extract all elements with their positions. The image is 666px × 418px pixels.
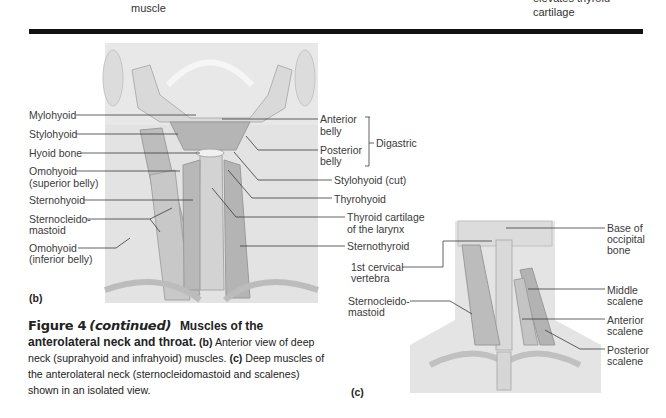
label-thyroid-cartilage: Thyroid cartilage [347, 212, 425, 223]
label-stylohyoid: Stylohyoid [29, 129, 77, 140]
figure-caption: Figure 4 (continued) Muscles of the ante… [28, 318, 333, 398]
figure-number: Figure 4 [28, 318, 86, 333]
figure-continued: (continued) [89, 318, 171, 333]
label-middle-scalene-2: scalene [607, 296, 643, 307]
label-omohyoid-superior-sub: (superior belly) [29, 178, 98, 189]
label-base-occipital-3: bone [607, 245, 630, 256]
panel-b-tag: (b) [29, 292, 42, 304]
caption-title-1: Muscles of the [180, 319, 263, 333]
label-omohyoid-superior: Omohyoid [29, 166, 77, 177]
label-thyroid-cartilage-2: of the larynx [347, 224, 404, 235]
caption-title-2: anterolateral neck and throat. [28, 335, 196, 349]
label-sternohyoid: Sternohyoid [29, 195, 85, 206]
label-anterior-belly: Anterior [320, 114, 357, 125]
label-sternothyroid: Sternothyroid [347, 241, 409, 252]
label-first-cervical-2: vertebra [351, 273, 390, 284]
caption-b-tag: (b) [199, 336, 213, 348]
panel-b-illustration [103, 43, 318, 303]
caption-c-tag: (c) [229, 352, 242, 364]
label-anterior-scalene-2: scalene [607, 326, 643, 337]
label-digastric: Digastric [376, 138, 417, 149]
panel-c-tag: (c) [351, 386, 364, 398]
label-anterior-belly-2: belly [320, 126, 342, 137]
label-posterior-scalene-2: scalene [607, 356, 643, 367]
label-mylohyoid: Mylohyoid [29, 110, 76, 121]
label-posterior-belly-2: belly [320, 156, 342, 167]
label-thyrohyoid: Thyrohyoid [334, 194, 386, 205]
label-sternocleidomastoid-c-2: mastoid [348, 307, 385, 318]
label-hyoid-bone: Hyoid bone [29, 148, 82, 159]
label-omohyoid-inferior-sub: (inferior belly) [29, 254, 93, 265]
panel-c-illustration [410, 221, 601, 393]
label-stylohyoid-cut: Stylohyoid (cut) [334, 175, 406, 186]
label-sternocleidomastoid-b-2: mastoid [29, 225, 66, 236]
